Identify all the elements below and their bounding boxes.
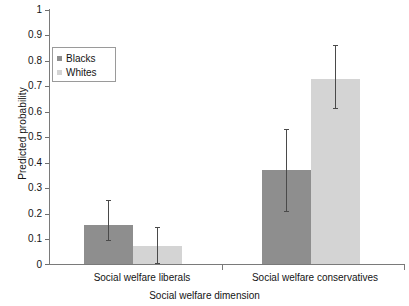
y-tick-label: 0.2 [16,209,42,219]
x-tick-mark-end [404,265,405,270]
errorbar-liberals-blacks [108,201,109,241]
errorbar-cap-conservatives-whites-high [333,45,338,46]
legend-item-whites[interactable]: Whites [57,65,111,79]
y-tick-label: 0.4 [16,158,42,168]
y-tick-label: 1 [16,5,42,15]
x-tick-mark-separator [222,265,223,270]
x-group-label-liberals: Social welfare liberals [62,272,222,283]
y-tick-label: 0 [16,260,42,270]
legend-swatch-icon [57,70,62,75]
bar-chart: Predicted probability 1 0.9 0.8 0.7 0.6 … [0,0,409,306]
y-tick-label: 0.9 [16,30,42,40]
legend-label: Whites [66,67,97,78]
legend-item-blacks[interactable]: Blacks [57,51,111,65]
y-tick-label: 0.8 [16,56,42,66]
y-tick-label: 0.7 [16,81,42,91]
legend-swatch-icon [57,56,62,61]
x-axis-title: Social welfare dimension [0,290,409,301]
errorbar-cap-liberals-whites-high [155,227,160,228]
errorbar-cap-conservatives-blacks-low [284,211,289,212]
y-axis-tick-labels: 1 0.9 0.8 0.7 0.6 0.5 0.4 0.3 0.2 0.1 0 [14,0,42,306]
errorbar-conservatives-whites [335,46,336,109]
errorbar-cap-conservatives-whites-low [333,108,338,109]
legend-label: Blacks [66,53,95,64]
errorbar-cap-conservatives-blacks-high [284,129,289,130]
errorbar-cap-liberals-blacks-low [106,240,111,241]
y-tick-label: 0.6 [16,107,42,117]
errorbar-cap-liberals-blacks-high [106,200,111,201]
y-tick-label: 0.5 [16,132,42,142]
errorbar-conservatives-blacks [286,130,287,212]
errorbar-cap-liberals-whites-low [155,263,160,264]
x-group-label-conservatives: Social welfare conservatives [225,272,405,283]
chart-legend: Blacks Whites [52,47,116,82]
y-tick-label: 0.3 [16,183,42,193]
y-tick-label: 0.1 [16,234,42,244]
x-axis-line [49,264,405,265]
errorbar-liberals-whites [157,228,158,264]
